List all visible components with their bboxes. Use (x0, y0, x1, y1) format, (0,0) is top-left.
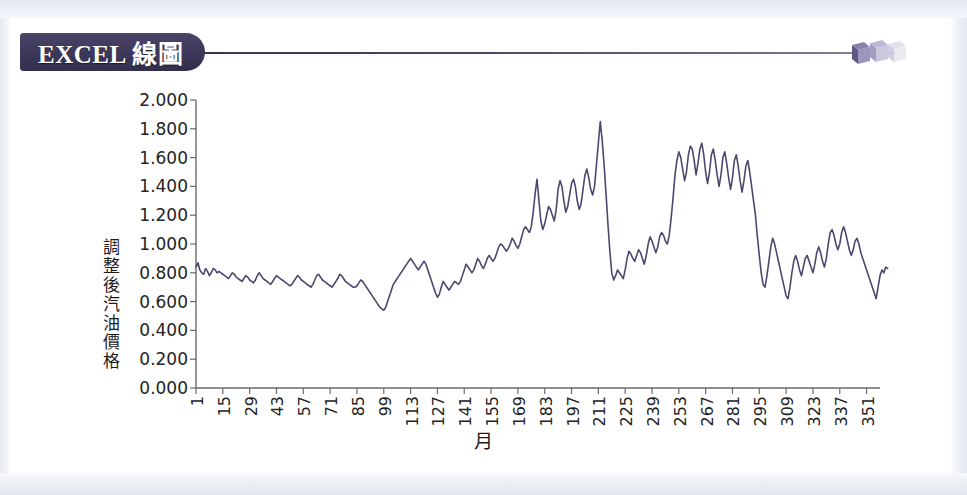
chart-x-tick-label: 113 (403, 396, 422, 427)
chart-x-tick-label: 295 (751, 396, 770, 427)
chart-x-tick-label: 85 (349, 396, 368, 416)
banner-badge: EXCEL 線圖 (20, 33, 205, 71)
chart-x-tick-label: 239 (644, 396, 663, 427)
chart-x-tick-label: 197 (564, 396, 583, 427)
chart-x-tick-label: 211 (590, 396, 609, 427)
banner-badge-label: EXCEL 線圖 (38, 34, 183, 70)
chart-x-tick-label: 155 (483, 396, 502, 427)
chart-y-tick-label: 1.200 (126, 205, 188, 225)
chart-x-tick-label: 1 (188, 396, 207, 406)
chart-x-tick-label: 71 (322, 396, 341, 416)
chart-y-tick-label: 0.200 (126, 349, 188, 369)
chart-x-tick-label: 281 (724, 396, 743, 427)
chart-y-axis-title: 調整後汽油價格 (98, 238, 124, 371)
chart-y-tick-label: 1.400 (126, 176, 188, 196)
chart-y-tick-label: 0.600 (126, 292, 188, 312)
chart-x-tick-label: 57 (295, 396, 314, 416)
chart-line-gasoline-price: 調整後汽油價格 2.0001.8001.6001.4001.2001.0000.… (0, 78, 967, 478)
chart-x-tick-label: 29 (242, 396, 261, 416)
chart-x-tick-label: 99 (376, 396, 395, 416)
chart-x-tick-label: 267 (698, 396, 717, 427)
chart-x-tick-label: 183 (537, 396, 556, 427)
banner-rule (195, 52, 895, 54)
chart-x-tick-label: 15 (215, 396, 234, 416)
chart-y-tick-label: 0.800 (126, 263, 188, 283)
page-root: EXCEL 線圖 (0, 0, 967, 495)
chart-y-tick-label: 1.800 (126, 119, 188, 139)
chart-y-tick-label: 2.000 (126, 90, 188, 110)
chart-x-tick-label: 351 (859, 396, 878, 427)
chart-x-axis-title: 月 (0, 426, 967, 453)
page-frame-top (0, 0, 967, 18)
chart-x-tick-label: 309 (778, 396, 797, 427)
cube-decoration-icon (846, 38, 920, 68)
section-banner: EXCEL 線圖 (10, 33, 910, 73)
chart-y-tick-label: 0.400 (126, 320, 188, 340)
chart-x-tick-label: 141 (456, 396, 475, 427)
chart-x-tick-label: 253 (671, 396, 690, 427)
chart-x-tick-label: 43 (268, 396, 287, 416)
chart-x-tick-label: 169 (510, 396, 529, 427)
chart-x-tick-label: 127 (429, 396, 448, 427)
chart-y-tick-label: 1.600 (126, 148, 188, 168)
chart-y-tick-label: 1.000 (126, 234, 188, 254)
chart-x-tick-label: 337 (832, 396, 851, 427)
chart-x-tick-label: 225 (617, 396, 636, 427)
chart-x-tick-label: 323 (805, 396, 824, 427)
chart-series-line (196, 122, 888, 311)
chart-y-tick-label: 0.000 (126, 378, 188, 398)
